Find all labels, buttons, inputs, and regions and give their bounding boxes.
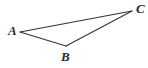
triangle-edge-bc <box>66 11 132 46</box>
vertex-label-b: B <box>61 50 70 63</box>
vertex-label-a: A <box>8 24 17 37</box>
triangle-figure: A B C <box>0 0 148 68</box>
triangle-edge-ac <box>20 11 132 32</box>
triangle-drawing <box>0 0 148 68</box>
triangle-edge-ab <box>20 32 66 46</box>
vertex-label-c: C <box>136 2 145 15</box>
